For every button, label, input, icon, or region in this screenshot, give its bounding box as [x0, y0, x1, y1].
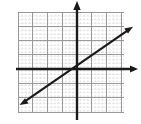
- coordinate-plane-svg: [0, 0, 141, 124]
- graph-figure: [0, 0, 141, 124]
- minor-gridlines: [18, 12, 124, 112]
